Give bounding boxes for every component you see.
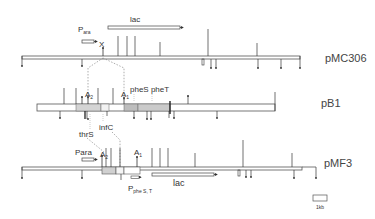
pb1-infc-label: infC (99, 123, 113, 132)
pmf3-a1-label: A1 (134, 148, 142, 158)
insertion-dashes-top (88, 58, 124, 100)
pmf3-promoter-arrow (82, 158, 94, 161)
pmc306-promoter-label: Para (78, 25, 91, 35)
pmc306-lac-arrow (108, 26, 180, 29)
map-pb1: A2 A1 pheS pheT thrS infC (37, 85, 341, 139)
pb1-a1-label: A1 (121, 90, 129, 100)
pmf3-a2-label: A2 (100, 150, 108, 160)
scale-bar: 1kb (313, 195, 327, 210)
pb1-name: pB1 (321, 97, 341, 109)
pmf3-name: pMF3 (324, 157, 352, 169)
pmf3-promoter-label: Para (75, 148, 92, 157)
pmf3-pphe-arrow (131, 176, 139, 179)
pmc306-site-x: X (99, 40, 105, 49)
pmc306-backbone (22, 56, 300, 59)
pb1-thrs-label: thrS (79, 130, 94, 139)
pmf3-pphe-label: Pphe S, T (128, 184, 152, 194)
pmc306-lac-label: lac (130, 15, 140, 24)
pmf3-backbone (22, 167, 302, 170)
plasmid-map-diagram: Para lac X pMC306 (0, 0, 375, 219)
pb1-a2-label: A2 (85, 90, 93, 100)
pmf3-lac-arrow (152, 173, 214, 176)
pmf3-lac-label: lac (173, 178, 185, 188)
scale-bar-label: 1kb (316, 204, 324, 210)
pmc306-name: pMC306 (325, 52, 367, 64)
map-pmc306: Para lac X pMC306 (21, 15, 366, 69)
pb1-phes-phet-label: pheS pheT (130, 85, 169, 94)
pmc306-promoter-arrow (82, 40, 94, 43)
map-pmf3: Para A2 A1 (21, 140, 352, 194)
